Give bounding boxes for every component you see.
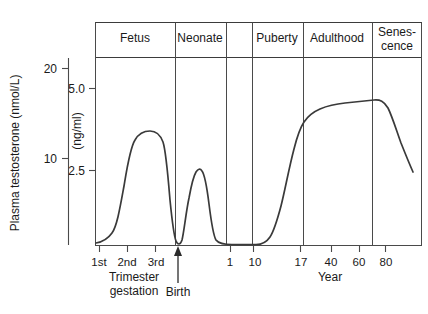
x-tick-label-year-80: 80 <box>380 256 393 268</box>
band-label-adulthood: Adulthood <box>310 31 364 45</box>
x-tick-label-year-17: 17 <box>295 256 308 268</box>
band-label-senescence-line1: Senes- <box>378 25 416 39</box>
y-axis-secondary-title: (ng/ml) <box>70 112 84 149</box>
y-tick-label-10: 10 <box>44 152 58 166</box>
band-label-senescence-line2: cence <box>381 39 413 53</box>
band-label-neonate: Neonate <box>177 31 223 45</box>
x-group-label-year: Year <box>318 270 342 284</box>
x-tick-label-3rd: 3rd <box>148 256 165 268</box>
band-label-puberty: Puberty <box>256 31 297 45</box>
x-group-label-gestation: gestation <box>110 284 159 298</box>
chart-canvas: Fetus Neonate Puberty Adulthood Senes- c… <box>0 0 428 314</box>
testosterone-lifespan-chart: Fetus Neonate Puberty Adulthood Senes- c… <box>0 0 428 314</box>
x-tick-label-year-1: 1 <box>227 256 233 268</box>
y-tick-label-20: 20 <box>44 62 58 76</box>
x-group-label-trimester: Trimester <box>109 270 159 284</box>
y-tick-label-5-0: 5.0 <box>68 82 85 96</box>
birth-marker-label: Birth <box>166 285 191 299</box>
x-tick-label-year-10: 10 <box>249 256 262 268</box>
y-tick-label-2-5: 2.5 <box>68 164 85 178</box>
x-tick-label-year-40: 40 <box>325 256 338 268</box>
x-tick-label-2nd: 2nd <box>117 256 136 268</box>
band-label-fetus: Fetus <box>120 31 150 45</box>
y-axis-primary-title: Plasma testosterone (nmol/L) <box>8 75 22 232</box>
x-tick-label-year-60: 60 <box>353 256 366 268</box>
x-tick-label-1st: 1st <box>91 256 107 268</box>
